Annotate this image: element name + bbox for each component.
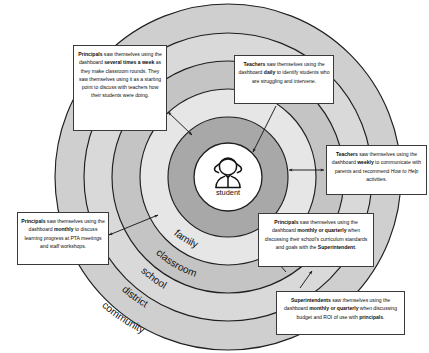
callout-principals-several-times-a-week[interactable]: Principals saw themselves using the dash… [73, 45, 167, 131]
callout-teachers-daily[interactable]: Teachers saw themselves using the dashbo… [234, 55, 334, 104]
callout-teachers-weekly[interactable]: Teachers saw themselves using the dashbo… [326, 145, 427, 195]
diagram-canvas: family classroom school district communi… [0, 0, 429, 353]
callout-principals-monthly-or-quarterly[interactable]: Principals saw themselves using the dash… [258, 213, 374, 267]
student-center-label: student [208, 188, 248, 197]
callout-principals-monthly[interactable]: Principals saw themselves using the dash… [17, 212, 109, 265]
callout-superintendents-monthly-or-quarterly[interactable]: Superintendents saw themselves using the… [276, 291, 405, 335]
